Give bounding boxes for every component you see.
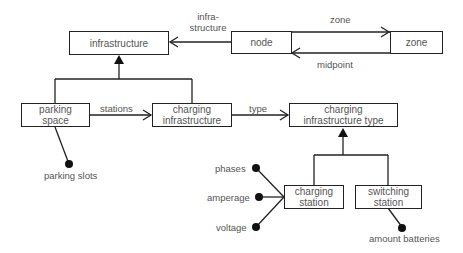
- entity-label: charging infrastructure type: [303, 104, 383, 126]
- attribute-amount-batteries: amount batteries: [369, 233, 440, 244]
- edge-label-type: type: [249, 103, 267, 114]
- entity-label: zone: [406, 37, 428, 48]
- attribute-phases: phases: [215, 163, 246, 174]
- entity-label: parking space: [39, 104, 72, 126]
- attribute-parking-slots: parking slots: [44, 170, 97, 181]
- edge-label-infrastructure: infra- structure: [183, 11, 233, 33]
- entity-label: charging infrastructure: [163, 104, 221, 126]
- entity-label: switching station: [368, 186, 409, 208]
- attribute-voltage: voltage: [216, 222, 247, 233]
- edge-label-midpoint: midpoint: [317, 59, 353, 70]
- entity-charging-infrastructure-type[interactable]: charging infrastructure type: [289, 103, 398, 127]
- entity-node[interactable]: node: [231, 31, 292, 54]
- entity-charging-infrastructure[interactable]: charging infrastructure: [152, 103, 232, 127]
- edge-label-zone: zone: [330, 14, 351, 25]
- entity-infrastructure[interactable]: infrastructure: [69, 31, 169, 55]
- attribute-amperage: amperage: [207, 192, 250, 203]
- entity-parking-space[interactable]: parking space: [21, 103, 90, 127]
- entity-switching-station[interactable]: switching station: [355, 185, 422, 209]
- entity-label: node: [250, 37, 272, 48]
- entity-charging-station[interactable]: charging station: [284, 185, 344, 209]
- entity-label: infrastructure: [90, 38, 148, 49]
- entity-label: charging station: [295, 186, 333, 208]
- entity-zone[interactable]: zone: [390, 31, 443, 54]
- edge-label-stations: stations: [100, 103, 133, 114]
